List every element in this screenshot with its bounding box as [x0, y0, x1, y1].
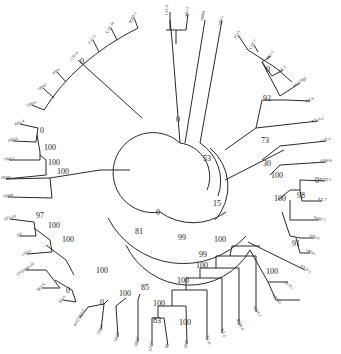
- leaf-label: 87: [164, 344, 169, 348]
- bootstrap-value: 98: [297, 191, 305, 200]
- leaf-label: 89yx: [51, 66, 61, 76]
- bootstrap-value: 100: [96, 266, 108, 275]
- bootstrap-value: 81: [135, 227, 143, 236]
- bootstrap-value: 100: [48, 158, 60, 167]
- bootstrap-value: 0: [80, 57, 84, 66]
- leaf-label: 18080: [1, 175, 11, 180]
- leaf-label: 18012: [3, 156, 14, 162]
- leaf-label: LY(mtg)-20: [15, 261, 34, 277]
- leaf-label: DZ: [16, 231, 23, 238]
- leaf-label: XZ-1: [277, 64, 287, 74]
- bootstrap-value: 83: [153, 316, 161, 325]
- leaf-label: CJZ-4: [69, 50, 80, 62]
- leaf-label: XZ-5: [220, 327, 228, 337]
- bootstrap-value: 30: [263, 159, 271, 168]
- leaf-label: 18004: [2, 192, 14, 199]
- leaf-label: 84yx: [57, 294, 67, 304]
- leaf-label: XFH-3: [319, 177, 331, 182]
- bootstrap-value: 100: [57, 167, 69, 176]
- bootstrap-value: 100: [177, 276, 189, 285]
- bootstrap-value: 100: [179, 318, 191, 327]
- leaf-label: 86YX: [36, 282, 47, 293]
- leaf-label: 18004: [199, 9, 206, 21]
- bootstrap-value: 99: [178, 233, 186, 242]
- bootstrap-value: 100: [214, 235, 226, 244]
- leaf-label: CJZ-1: [320, 136, 331, 143]
- bootstrap-value: 0: [315, 176, 319, 185]
- leaf-label: 105yx: [309, 232, 321, 241]
- bootstrap-values: 0010010010097100100010001008510083100100…: [36, 57, 319, 327]
- bootstrap-value: 0: [40, 126, 44, 135]
- leaf-label: 18033: [95, 324, 104, 336]
- bootstrap-value: 97: [36, 211, 44, 220]
- bootstrap-value: 100: [196, 261, 208, 270]
- bootstrap-value: 100: [44, 143, 56, 152]
- leaf-label: XFJ11: [147, 340, 153, 351]
- leaf-label: XZ-6: [304, 95, 314, 103]
- bootstrap-value: 100: [119, 289, 131, 298]
- leaf-label: XFH-6: [320, 158, 332, 164]
- leaf-label: CJZ-2: [87, 33, 97, 44]
- leaf-label: XZ-8: [205, 335, 212, 345]
- leaf-label: CJT-6: [164, 5, 169, 15]
- leaf-label: LYXG: [272, 293, 283, 305]
- phylogenetic-tree: RZH-2CJZ-3aCJZ-2CJZ-489yx18047100yxMG-41…: [0, 0, 341, 354]
- leaf-label: mtc(18g): [291, 75, 307, 88]
- leaf-label: 138yx: [20, 247, 32, 257]
- bootstrap-value: 0: [100, 298, 104, 307]
- bootstrap-value: 0: [266, 65, 270, 74]
- bootstrap-value: 100: [153, 299, 165, 308]
- leaf-label: 140yx: [305, 247, 317, 256]
- bootstrap-value: 85: [141, 283, 149, 292]
- leaf-label: MG-2: [184, 7, 190, 18]
- leaf-label: XZ-9-1: [299, 263, 312, 274]
- leaf-label: XZ-9-2: [311, 115, 324, 124]
- bootstrap-value: 91: [292, 239, 300, 248]
- leaf-label: 18050: [7, 136, 18, 143]
- bootstrap-value: 0: [156, 208, 160, 217]
- bootstrap-value: 100: [266, 267, 278, 276]
- leaf-label: LYYG: [283, 279, 295, 290]
- bootstrap-value: 92: [263, 94, 271, 103]
- leaf-label: MG-1: [265, 49, 275, 60]
- bootstrap-value: 100: [62, 235, 74, 244]
- bootstrap-value: 0: [176, 115, 180, 124]
- leaf-label: MG-4: [14, 118, 26, 127]
- leaf-label: XZ-7: [317, 196, 327, 202]
- leaf-label: RZH-2: [128, 11, 138, 24]
- bootstrap-value: 100: [48, 221, 60, 230]
- leaf-label: 18047: [36, 82, 48, 92]
- bootstrap-value: 15: [213, 199, 221, 208]
- leaf-label: XFJ-10: [3, 214, 16, 222]
- bootstrap-value: 100: [274, 194, 286, 203]
- leaf-label: XFH-2: [252, 305, 263, 318]
- bootstrap-value: 0: [66, 286, 70, 295]
- leaf-label: 18011: [217, 15, 225, 26]
- leaf-label: 18016: [133, 336, 140, 347]
- leaf-label: RZH-4: [235, 318, 245, 332]
- bootstrap-value: 100: [271, 171, 283, 180]
- leaf-label: 96yx: [183, 339, 188, 348]
- leaf-label: XFH-7: [313, 215, 326, 223]
- leaf-label: 18022: [113, 331, 121, 342]
- bootstrap-value: 53: [203, 154, 211, 163]
- leaf-label: mtc(18g)-2: [72, 308, 86, 327]
- bootstrap-value: 73: [261, 136, 269, 145]
- tree-svg: RZH-2CJZ-3aCJZ-2CJZ-489yx18047100yxMG-41…: [0, 0, 341, 354]
- bootstrap-value: 99: [199, 250, 207, 259]
